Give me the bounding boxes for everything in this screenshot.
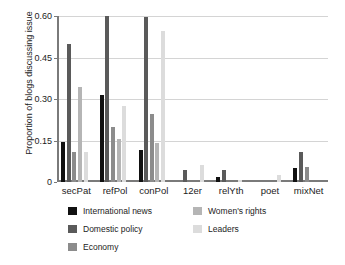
x-tick-label: poet <box>261 185 280 196</box>
bar <box>122 106 126 182</box>
y-tick-label: 0.30 <box>34 94 52 104</box>
bar <box>61 142 65 182</box>
bar-group <box>216 16 242 182</box>
bar <box>277 175 281 182</box>
plot-area: 00.150.300.450.60 secPatrefPolconPol12er… <box>57 16 328 182</box>
bar <box>293 168 297 182</box>
y-tick-label: 0 <box>47 177 52 187</box>
legend-swatch-icon <box>68 243 77 251</box>
legend-item: Economy <box>68 239 152 255</box>
bar-chart-figure: Proportion of blogs discussing issue 00.… <box>0 0 345 265</box>
bar <box>72 152 76 182</box>
bar <box>299 152 303 182</box>
bar <box>155 143 159 182</box>
bar <box>84 152 88 182</box>
bar <box>150 114 154 182</box>
x-tick-label: mixNet <box>294 185 324 196</box>
bar <box>200 165 204 182</box>
x-tick-label: relYth <box>219 185 244 196</box>
bar-group <box>293 16 319 182</box>
legend-label: Leaders <box>208 224 239 234</box>
y-tick-mark <box>54 182 58 183</box>
x-tick-label: refPol <box>103 185 128 196</box>
y-axis-title: Proportion of blogs discussing issue <box>24 0 34 168</box>
bar <box>139 150 143 182</box>
y-axis-line <box>57 16 59 182</box>
legend-swatch-icon <box>193 225 202 233</box>
bar-group <box>255 16 281 182</box>
legend-column-left: International newsDomestic policyEconomy <box>68 203 152 257</box>
bar <box>67 44 71 182</box>
legend-item: Domestic policy <box>68 221 152 237</box>
bar <box>78 87 82 182</box>
bar <box>222 170 226 182</box>
legend-item: Leaders <box>193 221 266 237</box>
x-tick-label: conPol <box>139 185 168 196</box>
bar <box>105 16 109 182</box>
bar <box>111 127 115 182</box>
bar <box>117 139 121 182</box>
legend-label: Women's rights <box>208 206 266 216</box>
y-tick-label: 0.15 <box>34 136 52 146</box>
y-tick-label: 0.60 <box>34 11 52 21</box>
legend-item: International news <box>68 203 152 219</box>
legend-swatch-icon <box>68 225 77 233</box>
y-tick-label: 0.45 <box>34 53 52 63</box>
bar <box>216 177 220 182</box>
bar <box>144 17 148 182</box>
bar <box>238 180 242 182</box>
legend-label: Domestic policy <box>83 224 143 234</box>
legend-label: Economy <box>83 242 118 252</box>
bar-group <box>139 16 165 182</box>
bar <box>161 31 165 182</box>
legend-item: Women's rights <box>193 203 266 219</box>
x-tick-label: 12er <box>183 185 202 196</box>
plot-inner: 00.150.300.450.60 secPatrefPolconPol12er… <box>57 16 328 182</box>
bar <box>100 95 104 182</box>
legend-column-right: Women's rightsLeaders <box>193 203 266 239</box>
bar <box>183 170 187 182</box>
bar-group <box>177 16 203 182</box>
legend-swatch-icon <box>68 207 77 215</box>
bar-group <box>100 16 126 182</box>
legend-swatch-icon <box>193 207 202 215</box>
x-tick-label: secPat <box>62 185 91 196</box>
legend-label: International news <box>83 206 152 216</box>
bar-group <box>61 16 87 182</box>
bar <box>305 167 309 182</box>
